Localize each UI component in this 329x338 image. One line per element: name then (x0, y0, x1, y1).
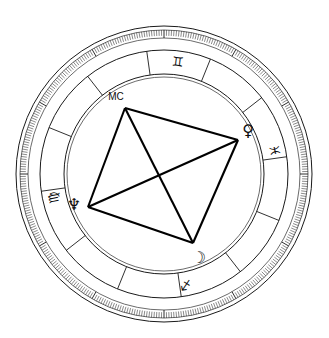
degree-tick (32, 230, 37, 232)
degree-tick (268, 265, 272, 269)
degree-tick (211, 39, 213, 44)
degree-tick (249, 283, 253, 288)
degree-tick (256, 67, 260, 71)
degree-tick (243, 56, 246, 61)
degree-tick (211, 304, 213, 309)
degree-tick (21, 161, 27, 162)
degree-tick (183, 311, 184, 317)
degree-tick (83, 55, 86, 60)
degree-tick (120, 305, 122, 311)
degree-tick (110, 302, 112, 307)
degree-tick (286, 239, 291, 242)
degree-tick (48, 89, 53, 92)
degree-tick (36, 237, 41, 240)
degree-tick (105, 42, 107, 47)
degree-tick (101, 298, 104, 303)
degree-tick (229, 296, 232, 301)
degree-tick (270, 263, 274, 267)
degree-tick (255, 65, 259, 69)
degree-tick (55, 265, 59, 269)
degree-tick (32, 115, 37, 117)
degree-tick (90, 292, 93, 297)
degree-tick (247, 284, 250, 289)
degree-tick (103, 43, 105, 48)
degree-tick (178, 31, 179, 37)
degree-tick (99, 46, 102, 51)
degree-tick (141, 311, 142, 317)
degree-tick (271, 261, 276, 265)
degree-tick (225, 45, 228, 50)
degree-tick (96, 47, 99, 52)
degree-tick (49, 87, 54, 90)
degree-tick (24, 142, 30, 143)
degree-tick (262, 272, 266, 276)
degree-tick (37, 239, 42, 242)
degree-tick (26, 214, 32, 216)
degree-tick (127, 35, 128, 41)
degree-tick (139, 310, 140, 316)
house-cusp-line (41, 188, 65, 191)
degree-tick (146, 31, 147, 37)
degree-tick (299, 203, 305, 204)
degree-tick (41, 100, 46, 103)
degree-tick (297, 137, 303, 139)
degree-tick (24, 139, 30, 140)
degree-tick (258, 275, 262, 279)
degree-tick (108, 41, 110, 46)
point-label-midheaven: MC (108, 91, 124, 102)
astrology-chart: ♊♓♍♐ MC♀☽♆ (0, 0, 329, 338)
degree-tick (298, 139, 304, 140)
degree-tick (200, 307, 202, 313)
degree-tick (292, 226, 297, 228)
degree-tick (38, 241, 43, 244)
degree-tick (241, 55, 244, 60)
degree-tick (51, 85, 56, 89)
degree-tick (245, 58, 248, 63)
degree-tick (297, 210, 303, 212)
degree-tick (186, 32, 187, 38)
degree-tick (151, 312, 152, 318)
degree-tick (101, 45, 104, 50)
degree-tick (29, 221, 34, 223)
degree-tick (273, 85, 278, 89)
degree-tick (22, 196, 28, 197)
degree-tick (292, 120, 297, 122)
degree-tick (295, 217, 301, 219)
degree-tick (26, 132, 32, 134)
degree-tick (105, 300, 107, 305)
degree-tick (297, 212, 303, 214)
degree-tick (129, 308, 130, 314)
degree-tick (144, 311, 145, 317)
degree-tick (301, 156, 307, 157)
degree-tick (239, 53, 242, 58)
degree-tick (273, 259, 278, 263)
degree-tick (220, 300, 222, 305)
degree-tick (28, 219, 33, 221)
degree-tick (297, 134, 303, 136)
planet-glyph-venus: ♀ (242, 121, 254, 140)
degree-tick (35, 111, 40, 114)
degree-tick (110, 40, 112, 45)
degree-tick (103, 299, 105, 304)
degree-tick (108, 301, 110, 306)
degree-tick (267, 78, 271, 82)
house-cusp-line (263, 157, 287, 160)
degree-tick (54, 263, 58, 267)
degree-tick (59, 268, 63, 272)
degree-tick (276, 255, 281, 258)
degree-tick (115, 304, 117, 309)
degree-tick (117, 38, 119, 43)
degree-tick (209, 38, 211, 43)
degree-tick (287, 237, 292, 240)
degree-tick (291, 118, 296, 120)
degree-tick (64, 273, 68, 277)
degree-tick (289, 113, 294, 115)
degree-tick (71, 64, 75, 68)
degree-tick (94, 295, 97, 300)
degree-tick (75, 283, 79, 288)
degree-tick (21, 154, 27, 155)
degree-tick (73, 281, 77, 286)
degree-tick (124, 307, 126, 313)
aspect-figure (88, 108, 238, 243)
degree-tick (43, 249, 48, 252)
